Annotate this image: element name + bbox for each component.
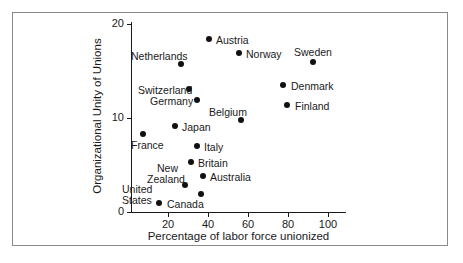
data-point-britain [188,159,194,165]
label-united-states-line2: States [122,195,152,206]
x-tick-label-80: 80 [273,219,303,230]
label-netherlands: Netherlands [131,51,188,62]
y-tick-20 [127,24,131,25]
data-point-canada [198,191,204,197]
x-tick-label-100: 100 [313,219,343,230]
label-finland: Finland [295,101,329,112]
x-tick-60 [248,213,249,217]
data-point-france [140,131,146,137]
data-point-denmark [280,82,286,88]
label-sweden: Sweden [294,47,332,58]
data-point-norway [236,50,242,56]
label-germany: Germany [150,96,193,107]
y-tick-label-0: 0 [100,206,124,217]
data-point-austria [206,36,212,42]
label-france: France [131,140,164,151]
label-denmark: Denmark [291,81,334,92]
scatter-plot: 20 10 0 20 40 60 80 100 Austria Nor [0,0,463,263]
x-axis-title: Percentage of labor force unionized [131,230,346,242]
data-point-japan [172,123,178,129]
label-australia: Australia [210,172,251,183]
x-tick-100 [328,213,329,217]
label-austria: Austria [216,35,249,46]
y-axis-title: Organizational Unity of Unions [91,16,103,216]
x-tick-20 [168,213,169,217]
data-point-united-states [156,200,162,206]
x-axis-line [131,212,346,213]
data-point-germany [194,97,200,103]
data-point-sweden [310,59,316,65]
figure-container: 20 10 0 20 40 60 80 100 Austria Nor [0,0,463,263]
data-point-italy [194,143,200,149]
y-tick-10 [127,118,131,119]
label-norway: Norway [246,49,282,60]
x-tick-label-60: 60 [233,219,263,230]
x-tick-label-20: 20 [153,219,183,230]
x-tick-80 [288,213,289,217]
y-tick-0 [127,212,131,213]
label-japan: Japan [182,122,211,133]
label-belgium: Belgium [209,107,247,118]
y-tick-label-10: 10 [100,112,124,123]
label-britain: Britain [198,158,228,169]
label-canada: Canada [167,199,204,210]
x-tick-40 [208,213,209,217]
label-italy: Italy [204,142,223,153]
data-point-australia [200,173,206,179]
data-point-finland [284,102,290,108]
y-tick-label-20: 20 [100,18,124,29]
x-tick-label-40: 40 [193,219,223,230]
label-new-zealand-line2: Zealand [147,174,185,185]
